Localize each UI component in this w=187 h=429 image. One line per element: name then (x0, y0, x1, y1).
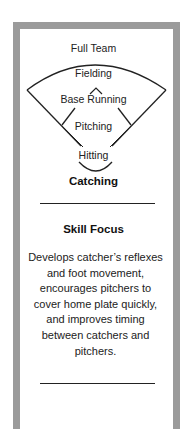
skill-focus-description: Develops catcher’s reflexes and foot mov… (26, 250, 165, 359)
level-fielding: Fielding (0, 67, 187, 79)
level-hitting: Hitting (0, 149, 187, 161)
level-pitching: Pitching (0, 120, 187, 132)
level-base-running: Base Running (0, 93, 187, 105)
skill-focus-title: Skill Focus (0, 223, 187, 235)
level-catching: Catching (0, 175, 187, 187)
bottom-divider (40, 383, 155, 384)
top-divider (40, 203, 155, 204)
